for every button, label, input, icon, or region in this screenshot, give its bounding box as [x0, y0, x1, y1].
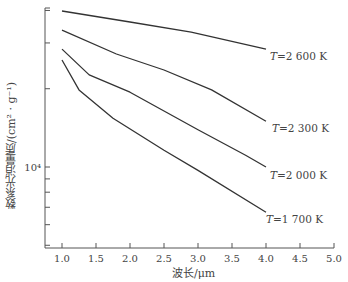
series-label-1700: T=1 700 K: [266, 213, 323, 225]
x-tick-label: 1.0: [54, 253, 70, 264]
y-axis-label: 数系光消量质/(cm² · g⁻¹): [4, 60, 22, 230]
x-tick-label: 2.0: [122, 253, 138, 264]
x-tick-label: 5.0: [326, 253, 342, 264]
chart-plot-area: 10⁴ 1.01.52.02.53.03.54.04.55.0: [0, 0, 348, 282]
data-lines: [62, 11, 266, 212]
x-tick-label: 3.5: [224, 253, 240, 264]
series-label-2300: T=2 300 K: [272, 122, 329, 134]
series-line-3: [62, 60, 266, 212]
x-tick-label: 1.5: [88, 253, 104, 264]
x-tick-label: 3.0: [190, 253, 206, 264]
series-label-2000: T=2 000 K: [270, 169, 327, 181]
x-tick-label: 4.0: [258, 253, 274, 264]
x-tick-label: 4.5: [292, 253, 308, 264]
x-axis: 1.01.52.02.53.03.54.04.55.0: [45, 243, 342, 264]
y-axis: 10⁴: [24, 8, 50, 248]
y-tick-label: 10⁴: [24, 162, 41, 173]
x-axis-label: 波长/μm: [172, 264, 215, 280]
x-tick-label: 2.5: [156, 253, 172, 264]
series-label-2600: T=2 600 K: [270, 50, 327, 62]
series-line-2: [62, 49, 266, 167]
